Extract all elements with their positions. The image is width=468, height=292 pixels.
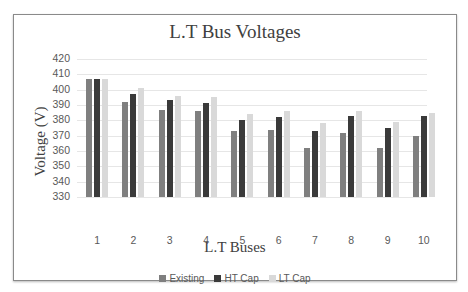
x-tick-label: 5 xyxy=(227,234,257,246)
bar-lt-cap xyxy=(102,79,108,197)
x-tick-label: 1 xyxy=(82,234,112,246)
gridline xyxy=(77,197,427,198)
x-tick-label: 3 xyxy=(155,234,185,246)
y-tick-label: 350 xyxy=(40,159,70,171)
legend-swatch-icon xyxy=(159,275,166,282)
bar-existing xyxy=(86,79,92,197)
bar-ht-cap xyxy=(421,116,427,197)
x-tick-label: 10 xyxy=(409,234,439,246)
bar-existing xyxy=(268,130,274,197)
bar-lt-cap xyxy=(284,111,290,197)
bar-ht-cap xyxy=(167,100,173,197)
y-tick-label: 410 xyxy=(40,67,70,79)
bar-ht-cap xyxy=(239,120,245,197)
bar-ht-cap xyxy=(94,79,100,197)
x-tick-label: 4 xyxy=(191,234,221,246)
bar-lt-cap xyxy=(175,96,181,197)
bar-existing xyxy=(159,110,165,197)
y-tick-label: 380 xyxy=(40,113,70,125)
bar-existing xyxy=(340,133,346,197)
y-tick-label: 330 xyxy=(40,190,70,202)
bar-lt-cap xyxy=(211,97,217,197)
y-tick-label: 420 xyxy=(40,52,70,64)
bar-ht-cap xyxy=(203,103,209,197)
bar-existing xyxy=(413,136,419,197)
bar-existing xyxy=(304,148,310,197)
y-tick-label: 360 xyxy=(40,144,70,156)
x-tick-label: 7 xyxy=(300,234,330,246)
legend-swatch-icon xyxy=(269,275,276,282)
bar-existing xyxy=(195,111,201,197)
x-tick-label: 8 xyxy=(336,234,366,246)
x-tick-label: 2 xyxy=(118,234,148,246)
gridline xyxy=(77,90,427,91)
legend-item: Existing xyxy=(159,273,204,284)
bar-ht-cap xyxy=(312,131,318,197)
bar-lt-cap xyxy=(138,88,144,197)
bar-existing xyxy=(122,102,128,197)
bar-ht-cap xyxy=(276,117,282,197)
legend-item: HT Cap xyxy=(214,273,258,284)
bar-ht-cap xyxy=(385,128,391,197)
legend-item: LT Cap xyxy=(269,273,311,284)
chart-frame: L.T Bus Voltages Voltage (V) L.T Buses E… xyxy=(13,14,457,281)
legend-label: Existing xyxy=(169,273,204,284)
bar-existing xyxy=(377,148,383,197)
y-tick-label: 390 xyxy=(40,98,70,110)
y-tick-label: 370 xyxy=(40,129,70,141)
x-tick-label: 6 xyxy=(264,234,294,246)
bar-lt-cap xyxy=(429,113,435,197)
bar-lt-cap xyxy=(247,114,253,197)
bar-lt-cap xyxy=(320,123,326,197)
gridline xyxy=(77,74,427,75)
bar-lt-cap xyxy=(356,111,362,197)
bar-lt-cap xyxy=(393,122,399,197)
legend: ExistingHT CapLT Cap xyxy=(14,273,456,284)
legend-label: LT Cap xyxy=(279,273,311,284)
y-tick-label: 340 xyxy=(40,175,70,187)
chart-title: L.T Bus Voltages xyxy=(14,21,456,43)
legend-swatch-icon xyxy=(214,275,221,282)
gridline xyxy=(77,59,427,60)
y-tick-label: 400 xyxy=(40,83,70,95)
bar-ht-cap xyxy=(130,94,136,197)
legend-label: HT Cap xyxy=(224,273,258,284)
bar-existing xyxy=(231,131,237,197)
bar-ht-cap xyxy=(348,116,354,197)
x-tick-label: 9 xyxy=(373,234,403,246)
